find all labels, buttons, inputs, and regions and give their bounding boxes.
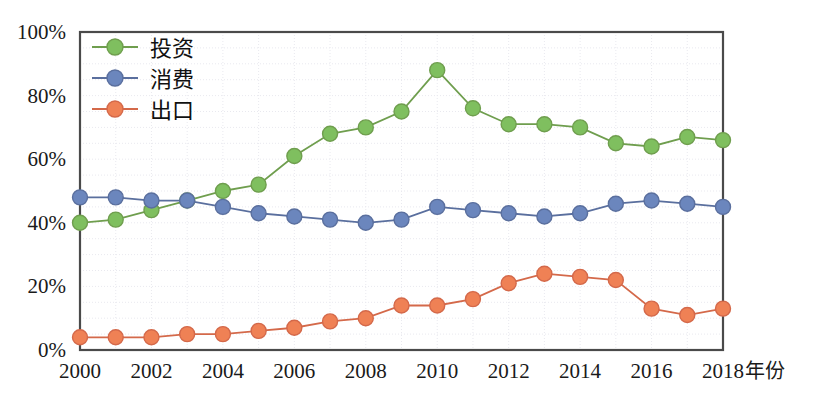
data-point[interactable] bbox=[144, 193, 159, 208]
data-point[interactable] bbox=[680, 129, 695, 144]
y-axis-tick-label: 80% bbox=[28, 84, 67, 108]
legend-marker-0 bbox=[107, 39, 123, 55]
data-point[interactable] bbox=[73, 190, 88, 205]
y-axis-tick-label: 60% bbox=[28, 147, 67, 171]
data-point[interactable] bbox=[501, 117, 516, 132]
legend-label-2: 出口 bbox=[150, 98, 194, 123]
line-chart: 0%20%40%60%80%100%2000200220042006200820… bbox=[0, 0, 814, 407]
legend-label-1: 消费 bbox=[150, 67, 194, 92]
data-point[interactable] bbox=[287, 149, 302, 164]
data-point[interactable] bbox=[537, 117, 552, 132]
data-point[interactable] bbox=[573, 206, 588, 221]
legend-label-0: 投资 bbox=[150, 36, 194, 61]
y-axis-tick-label: 100% bbox=[17, 20, 66, 44]
data-point[interactable] bbox=[537, 266, 552, 281]
data-point[interactable] bbox=[644, 193, 659, 208]
x-axis-tick-label: 2008 bbox=[345, 359, 387, 383]
x-axis-tick-label: 2018 bbox=[702, 359, 744, 383]
x-axis-tick-label: 2012 bbox=[488, 359, 530, 383]
data-point[interactable] bbox=[251, 206, 266, 221]
x-axis-tick-label: 2004 bbox=[202, 359, 245, 383]
data-point[interactable] bbox=[394, 104, 409, 119]
data-point[interactable] bbox=[716, 199, 731, 214]
x-axis-tick-label: 2014 bbox=[559, 359, 602, 383]
data-point[interactable] bbox=[608, 273, 623, 288]
data-point[interactable] bbox=[215, 327, 230, 342]
data-point[interactable] bbox=[215, 184, 230, 199]
data-point[interactable] bbox=[644, 139, 659, 154]
data-point[interactable] bbox=[394, 298, 409, 313]
data-point[interactable] bbox=[430, 63, 445, 78]
chart-page: 0%20%40%60%80%100%2000200220042006200820… bbox=[0, 0, 814, 407]
data-point[interactable] bbox=[716, 301, 731, 316]
data-point[interactable] bbox=[430, 199, 445, 214]
data-point[interactable] bbox=[501, 276, 516, 291]
data-point[interactable] bbox=[465, 292, 480, 307]
data-point[interactable] bbox=[287, 320, 302, 335]
data-point[interactable] bbox=[573, 269, 588, 284]
y-axis-tick-labels: 0%20%40%60%80%100% bbox=[17, 20, 66, 362]
series-1 bbox=[73, 190, 731, 230]
data-point[interactable] bbox=[358, 120, 373, 135]
data-point[interactable] bbox=[680, 308, 695, 323]
data-point[interactable] bbox=[358, 215, 373, 230]
data-point[interactable] bbox=[73, 330, 88, 345]
data-point[interactable] bbox=[716, 133, 731, 148]
x-axis-tick-label: 2000 bbox=[59, 359, 101, 383]
x-axis-tick-label: 2010 bbox=[416, 359, 458, 383]
data-point[interactable] bbox=[287, 209, 302, 224]
data-point[interactable] bbox=[465, 203, 480, 218]
legend-marker-1 bbox=[107, 70, 123, 86]
y-axis-tick-label: 40% bbox=[28, 211, 67, 235]
data-point[interactable] bbox=[251, 323, 266, 338]
data-point[interactable] bbox=[180, 193, 195, 208]
x-axis-tick-label: 2002 bbox=[130, 359, 172, 383]
data-point[interactable] bbox=[394, 212, 409, 227]
data-point[interactable] bbox=[180, 327, 195, 342]
x-axis-tick-label: 2006 bbox=[273, 359, 315, 383]
data-point[interactable] bbox=[644, 301, 659, 316]
x-axis-tick-labels: 2000200220042006200820102012201420162018 bbox=[59, 359, 744, 383]
data-point[interactable] bbox=[215, 199, 230, 214]
data-point[interactable] bbox=[358, 311, 373, 326]
data-point[interactable] bbox=[608, 136, 623, 151]
data-point[interactable] bbox=[465, 101, 480, 116]
y-axis-tick-label: 20% bbox=[28, 274, 67, 298]
x-axis-tick-label: 2016 bbox=[631, 359, 673, 383]
data-point[interactable] bbox=[251, 177, 266, 192]
data-point[interactable] bbox=[108, 330, 123, 345]
data-point[interactable] bbox=[573, 120, 588, 135]
data-point[interactable] bbox=[108, 190, 123, 205]
data-point[interactable] bbox=[73, 215, 88, 230]
data-point[interactable] bbox=[144, 330, 159, 345]
data-point[interactable] bbox=[430, 298, 445, 313]
data-point[interactable] bbox=[323, 126, 338, 141]
data-point[interactable] bbox=[537, 209, 552, 224]
data-point[interactable] bbox=[323, 212, 338, 227]
data-point[interactable] bbox=[323, 314, 338, 329]
data-point[interactable] bbox=[608, 196, 623, 211]
data-point[interactable] bbox=[108, 212, 123, 227]
legend-marker-2 bbox=[107, 101, 123, 117]
data-point[interactable] bbox=[680, 196, 695, 211]
x-axis-title: 年份 bbox=[745, 360, 785, 382]
data-point[interactable] bbox=[501, 206, 516, 221]
